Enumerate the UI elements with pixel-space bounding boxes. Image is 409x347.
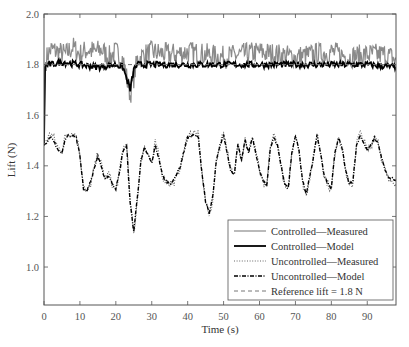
lift-time-chart: 01020304050607080901.01.21.41.61.82.0 Ti… xyxy=(0,0,409,347)
series-dotted xyxy=(44,130,396,233)
legend-label: Uncontrolled—Measured xyxy=(271,256,379,267)
x-tick-label: 40 xyxy=(182,311,193,322)
y-tick-label: 1.8 xyxy=(26,59,39,70)
x-tick-label: 60 xyxy=(254,311,265,322)
legend-label: Controlled—Model xyxy=(271,241,354,252)
x-axis-title: Time (s) xyxy=(201,323,239,336)
series-solid-gray xyxy=(44,38,396,143)
x-tick-label: 50 xyxy=(218,311,229,322)
y-tick-label: 1.4 xyxy=(26,160,40,171)
x-tick-label: 0 xyxy=(41,311,46,322)
legend-label: Uncontrolled—Model xyxy=(271,271,364,282)
series-layer xyxy=(44,38,396,233)
legend-label: Controlled—Measured xyxy=(271,226,369,237)
x-tick-label: 90 xyxy=(362,311,373,322)
y-tick-label: 1.2 xyxy=(26,211,39,222)
x-tick-label: 80 xyxy=(326,311,337,322)
series-solid-black-thick xyxy=(44,60,396,143)
x-tick-label: 70 xyxy=(290,311,301,322)
y-tick-label: 1.0 xyxy=(26,262,39,273)
legend-label: Reference lift = 1.8 N xyxy=(271,286,363,297)
y-axis-title: Lift (N) xyxy=(5,142,18,177)
y-tick-label: 2.0 xyxy=(26,9,39,20)
x-tick-label: 30 xyxy=(147,311,158,322)
y-tick-label: 1.6 xyxy=(26,110,39,121)
x-tick-label: 10 xyxy=(75,311,86,322)
legend: Controlled—MeasuredControlled—ModelUncon… xyxy=(228,220,393,300)
x-tick-label: 20 xyxy=(111,311,122,322)
